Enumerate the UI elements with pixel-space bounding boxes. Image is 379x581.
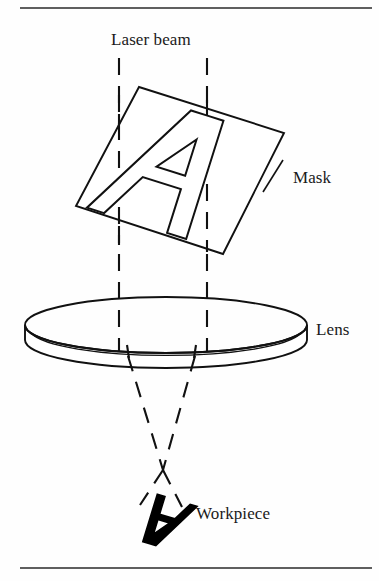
label-lens: Lens <box>316 320 349 340</box>
label-workpiece: Workpiece <box>196 504 270 524</box>
laser-ray-left-converging <box>128 356 163 470</box>
diagram-canvas <box>0 0 379 581</box>
laser-ray-left-diverging <box>163 470 182 507</box>
label-mask: Mask <box>293 168 331 188</box>
workpiece-mark <box>143 494 197 554</box>
lens-body <box>25 297 307 368</box>
mask-assembly <box>76 87 284 254</box>
label-laser-beam: Laser beam <box>111 30 191 50</box>
laser-mask-projection-figure: Laser beam Mask Lens Workpiece <box>0 0 379 581</box>
laser-beam-converging <box>128 356 195 507</box>
laser-ray-right-converging <box>163 356 195 470</box>
workpiece-letter-a-fill <box>143 494 197 554</box>
